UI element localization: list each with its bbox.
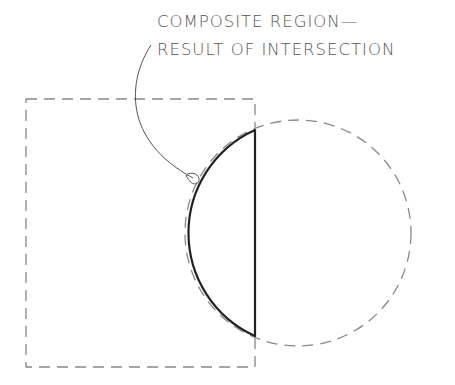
diagram-canvas: COMPOSITE REGION— RESULT OF INTERSECTION [0,0,455,385]
annotation-line-2: RESULT OF INTERSECTION [157,40,395,59]
leader-line [135,45,193,178]
annotation-line-1: COMPOSITE REGION— [157,12,358,31]
dashed-circle [185,120,411,346]
dashed-rectangle [26,99,255,367]
intersection-region [188,130,255,336]
